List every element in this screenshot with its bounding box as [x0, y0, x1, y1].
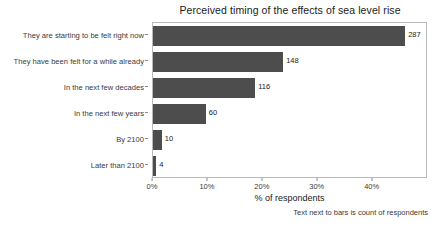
- bar-row: 10: [153, 127, 426, 153]
- bar[interactable]: [153, 130, 162, 150]
- y-axis-tick-label: Later than 2100: [91, 161, 148, 170]
- chart-title: Perceived timing of the effects of sea l…: [152, 4, 428, 16]
- bars-layer: 287 148 116 60 10 4: [153, 23, 426, 177]
- x-axis-tick-mark: [261, 178, 262, 181]
- y-axis-tick-mark: [145, 60, 148, 61]
- bar-value-label: 148: [286, 56, 299, 65]
- x-axis-tick-1: 10%: [199, 178, 214, 191]
- bar[interactable]: [153, 156, 156, 176]
- y-axis-tick-mark: [145, 112, 148, 113]
- x-axis-tick-label: 20%: [254, 182, 269, 191]
- bar-value-label: 60: [209, 108, 217, 117]
- x-axis-tick-label: 10%: [199, 182, 214, 191]
- y-axis-tick-mark: [145, 34, 148, 35]
- chart-figure: Perceived timing of the effects of sea l…: [0, 0, 434, 225]
- x-axis-tick-mark: [152, 178, 153, 181]
- bar[interactable]: [153, 78, 255, 98]
- bar-value-label: 287: [408, 30, 421, 39]
- y-axis-tick-1: They have been felt for a while already: [0, 48, 148, 74]
- plot-area: 287 148 116 60 10 4: [152, 22, 427, 178]
- y-axis-tick-3: In the next few years: [0, 100, 148, 126]
- y-axis-tick-mark: [145, 86, 148, 87]
- x-axis-tick-mark: [206, 178, 207, 181]
- x-axis-tick-label: 40%: [364, 182, 379, 191]
- x-axis-title: % of respondents: [152, 193, 427, 203]
- y-axis-tick-label: They are starting to be felt right now: [23, 31, 148, 40]
- chart-caption: Text next to bars is count of respondent…: [293, 208, 428, 217]
- y-axis-tick-mark: [145, 138, 148, 139]
- y-axis-tick-mark: [145, 164, 148, 165]
- bar-row: 116: [153, 75, 426, 101]
- x-axis-tick-3: 30%: [309, 178, 324, 191]
- x-axis-tick-0: 0%: [147, 178, 158, 191]
- x-axis-tick-label: 30%: [309, 182, 324, 191]
- x-axis-tick-mark: [316, 178, 317, 181]
- bar-value-label: 4: [159, 160, 163, 169]
- y-axis-tick-0: They are starting to be felt right now: [0, 22, 148, 48]
- bar[interactable]: [153, 104, 206, 124]
- y-axis-tick-label: By 2100: [116, 135, 148, 144]
- x-axis-tick-mark: [371, 178, 372, 181]
- bar-value-label: 10: [165, 134, 173, 143]
- x-axis-tick-4: 40%: [364, 178, 379, 191]
- y-axis-tick-4: By 2100: [0, 126, 148, 152]
- bar[interactable]: [153, 52, 283, 72]
- x-axis-tick-label: 0%: [147, 182, 158, 191]
- y-axis-tick-label: In the next few decades: [64, 83, 148, 92]
- bar[interactable]: [153, 26, 405, 46]
- y-axis-tick-2: In the next few decades: [0, 74, 148, 100]
- y-axis-tick-label: In the next few years: [74, 109, 148, 118]
- bar-value-label: 116: [258, 82, 270, 91]
- bar-row: 287: [153, 23, 426, 49]
- y-axis-tick-label: They have been felt for a while already: [14, 57, 148, 66]
- bar-row: 148: [153, 49, 426, 75]
- y-axis-tick-5: Later than 2100: [0, 152, 148, 178]
- x-axis-tick-2: 20%: [254, 178, 269, 191]
- bar-row: 4: [153, 153, 426, 179]
- bar-row: 60: [153, 101, 426, 127]
